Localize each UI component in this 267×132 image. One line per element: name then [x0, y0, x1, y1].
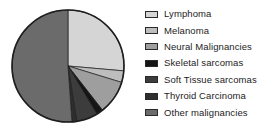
legend-label-other-malignancies: Other malignancies — [164, 108, 248, 118]
legend-item-skeletal-sarcomas[interactable]: Skeletal sarcomas — [145, 55, 267, 71]
legend-item-thyroid-carcinoma[interactable]: Thyroid Carcinoma — [145, 88, 267, 104]
legend-item-other-malignancies[interactable]: Other malignancies — [145, 104, 267, 120]
legend-item-melanoma[interactable]: Melanoma — [145, 22, 267, 38]
legend-swatch-other-malignancies — [145, 109, 158, 116]
legend-swatch-thyroid-carcinoma — [145, 93, 158, 100]
legend-label-skeletal-sarcomas: Skeletal sarcomas — [164, 58, 243, 68]
chart-legend: Lymphoma Melanoma Neural Malignancies Sk… — [145, 6, 267, 128]
pie-chart-plot-area — [0, 0, 140, 132]
legend-swatch-soft-tissue-sarcomas — [145, 76, 158, 83]
pie-chart-figure: Lymphoma Melanoma Neural Malignancies Sk… — [0, 0, 267, 132]
legend-item-lymphoma[interactable]: Lymphoma — [145, 6, 267, 22]
legend-swatch-lymphoma — [145, 11, 158, 18]
legend-swatch-neural-malignancies — [145, 43, 158, 50]
legend-label-thyroid-carcinoma: Thyroid Carcinoma — [164, 91, 246, 101]
legend-item-neural-malignancies[interactable]: Neural Malignancies — [145, 39, 267, 55]
legend-label-neural-malignancies: Neural Malignancies — [164, 42, 252, 52]
legend-swatch-skeletal-sarcomas — [145, 60, 158, 67]
legend-label-soft-tissue-sarcomas: Soft Tissue sarcomas — [164, 75, 257, 85]
legend-swatch-melanoma — [145, 27, 158, 34]
pie-slice-other-malignancies[interactable] — [12, 10, 72, 122]
pie-slice-lymphoma[interactable] — [68, 10, 124, 71]
pie-chart-svg — [0, 0, 140, 132]
legend-item-soft-tissue-sarcomas[interactable]: Soft Tissue sarcomas — [145, 72, 267, 88]
legend-label-melanoma: Melanoma — [164, 26, 209, 36]
legend-label-lymphoma: Lymphoma — [164, 9, 211, 19]
